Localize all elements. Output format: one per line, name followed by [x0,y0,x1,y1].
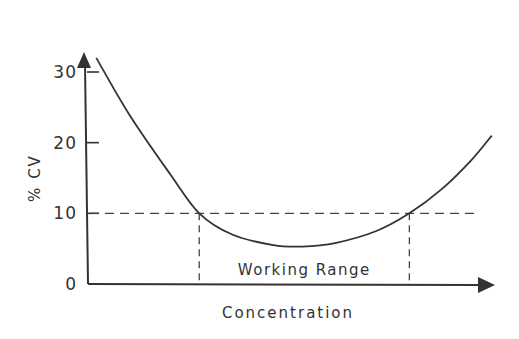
cv-curve [96,58,492,247]
y-tick-label-10: 10 [53,203,77,223]
precision-profile-chart: 0102030 Working Range Concentration % CV [0,0,519,339]
working-range-label: Working Range [238,261,371,279]
axes [77,52,495,293]
y-tick-label-0: 0 [65,274,77,294]
y-axis-arrowhead [77,52,91,68]
x-axis-title: Concentration [222,304,354,322]
x-axis-arrowhead [478,277,495,293]
y-ticks: 0102030 [53,62,99,294]
y-tick-label-20: 20 [53,133,77,153]
x-axis [88,284,480,285]
y-axis-title: % CV [26,154,44,202]
y-axis [85,64,88,284]
y-tick-label-30: 30 [53,62,77,82]
